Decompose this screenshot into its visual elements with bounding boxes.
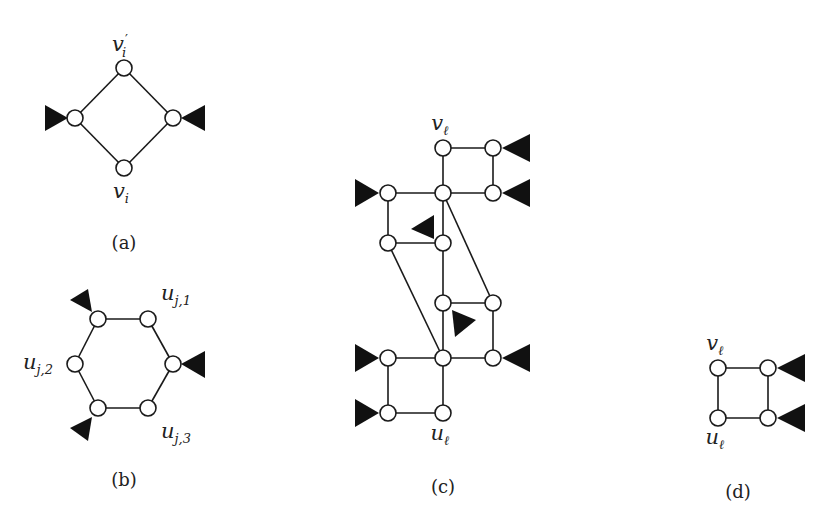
triangle-marker-icon: [777, 354, 805, 382]
label-u-j2: uj,2: [23, 350, 53, 377]
vertex: [760, 360, 776, 376]
vertex: [90, 311, 106, 327]
triangle-marker-icon: [45, 105, 68, 131]
triangle-marker-icon: [502, 134, 530, 162]
triangle-marker-icon: [355, 399, 379, 427]
caption-b: (b): [111, 469, 137, 490]
vertex: [435, 350, 451, 366]
caption-d: (d): [725, 481, 751, 502]
label-u-j1: uj,1: [161, 281, 191, 308]
vertex: [165, 356, 181, 372]
vertex: [435, 295, 451, 311]
label-v-i: vi: [113, 179, 129, 206]
vertex: [116, 160, 132, 176]
vertex: [485, 350, 501, 366]
vertex: [760, 410, 776, 426]
vertex: [485, 185, 501, 201]
panel-a-diamond-gadget: [45, 60, 205, 176]
vertex: [710, 360, 726, 376]
label-u-ell-d: uℓ: [706, 425, 726, 452]
edge: [124, 68, 173, 118]
vertex: [485, 295, 501, 311]
triangle-marker-icon: [502, 344, 530, 372]
vertex: [140, 311, 156, 327]
vertex: [435, 405, 451, 421]
triangle-marker-icon: [411, 215, 434, 239]
triangle-marker-icon: [777, 404, 805, 432]
vertex: [67, 110, 83, 126]
vertex: [380, 235, 396, 251]
vertex: [380, 185, 396, 201]
panel-d-square-gadget: [710, 354, 805, 432]
edge: [75, 68, 124, 118]
edge: [124, 118, 173, 168]
vertex: [435, 235, 451, 251]
panel-b-hexagon-gadget: [67, 289, 205, 441]
vertex: [380, 405, 396, 421]
vertex: [90, 400, 106, 416]
label-u-j3: uj,3: [161, 419, 191, 446]
figure-canvas: v′i vi (a) uj,1 uj,2 uj,3 (b) vℓ uℓ (c) …: [0, 0, 826, 532]
label-v-ell-d: vℓ: [706, 331, 724, 358]
triangle-marker-icon: [452, 310, 476, 337]
triangle-marker-icon: [181, 105, 205, 131]
panel-c-composite-gadget: [355, 134, 530, 427]
caption-a: (a): [112, 232, 137, 253]
label-u-ell-c: uℓ: [431, 421, 451, 448]
label-v-ell-c: vℓ: [431, 111, 449, 138]
vertex: [116, 60, 132, 76]
vertex: [67, 356, 83, 372]
vertex: [380, 350, 396, 366]
triangle-marker-icon: [355, 179, 379, 207]
vertex: [165, 110, 181, 126]
triangle-marker-icon: [355, 344, 379, 372]
vertex: [710, 410, 726, 426]
vertex: [485, 140, 501, 156]
triangle-marker-icon: [70, 417, 92, 441]
triangle-marker-icon: [70, 289, 92, 312]
vertex: [435, 185, 451, 201]
vertex: [140, 400, 156, 416]
edge: [443, 193, 493, 303]
edge: [75, 118, 124, 168]
triangle-marker-icon: [502, 179, 530, 207]
caption-c: (c): [431, 476, 455, 497]
label-v-i-prime: v′i: [112, 32, 128, 60]
vertex: [435, 140, 451, 156]
triangle-marker-icon: [181, 351, 205, 378]
